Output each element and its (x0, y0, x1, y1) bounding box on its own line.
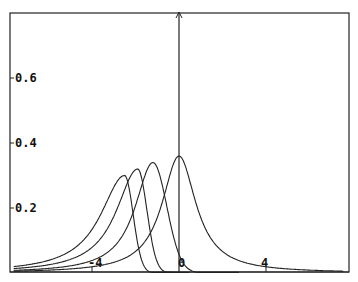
x-tick-label: 0 (178, 256, 185, 270)
y-tick-label: 0.2 (15, 201, 37, 215)
y-tick-label: 0.6 (15, 71, 37, 85)
x-tick-label: -4 (88, 256, 102, 270)
chart: 0.6 0.4 0.2 -4 0 4 (0, 0, 358, 282)
x-ticks: -4 0 4 (88, 256, 268, 272)
y-tick-label: 0.4 (15, 136, 37, 150)
x-tick-label: 4 (261, 256, 268, 270)
y-ticks: 0.6 0.4 0.2 (10, 71, 37, 215)
